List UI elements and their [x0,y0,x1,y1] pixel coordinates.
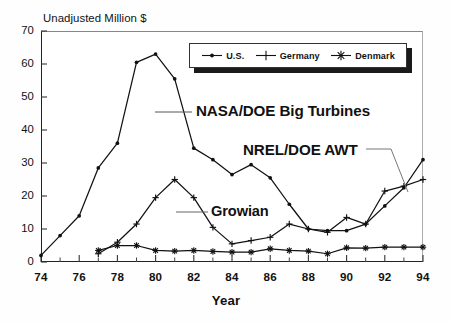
series-denmark [95,242,426,257]
legend-label-germany: Germany [280,51,320,61]
x-axis-tick-label: 94 [408,270,438,283]
x-axis-tick-label: 92 [370,270,400,283]
y-axis-tick-label: 0 [8,255,34,267]
chart-figure: Unadjusted Million $ U.S. Germany [0,0,452,323]
chart-legend: U.S. Germany Denmark [189,43,407,68]
y-axis-tick-label: 50 [8,90,34,102]
y-axis-tick-label: 20 [8,189,34,201]
legend-label-denmark: Denmark [355,51,395,61]
asterisk-marker-icon [330,50,352,61]
x-axis-tick-label: 80 [141,270,171,283]
x-axis-tick-label: 74 [26,270,56,283]
y-axis-tick-label: 70 [8,24,34,36]
dot-marker-icon [201,50,223,61]
y-axis-tick-label: 10 [8,222,34,234]
legend-item-germany[interactable]: Germany [255,50,320,61]
x-axis-tick-label: 84 [217,270,247,283]
annotation-nrel-doe-awt: NREL/DOE AWT [243,141,358,158]
annotation-nasa-doe-big-turbines: NASA/DOE Big Turbines [196,102,370,119]
legend-item-us[interactable]: U.S. [201,50,244,61]
legend-item-denmark[interactable]: Denmark [330,50,395,61]
x-axis-tick-label: 82 [179,270,209,283]
x-axis-tick-label: 76 [64,270,94,283]
plus-marker-icon [255,50,277,61]
y-axis-tick-label: 60 [8,57,34,69]
x-axis-tick-label: 78 [102,270,132,283]
y-axis-tick-label: 40 [8,123,34,135]
legend-label-us: U.S. [226,51,244,61]
y-axis-tick-label: 30 [8,156,34,168]
series-us [39,52,425,257]
x-axis-tick-label: 90 [332,270,362,283]
x-axis-tick-label: 86 [255,270,285,283]
x-axis-title: Year [0,293,452,308]
x-axis-tick-label: 88 [293,270,323,283]
annotation-growian: Growian [211,203,269,219]
